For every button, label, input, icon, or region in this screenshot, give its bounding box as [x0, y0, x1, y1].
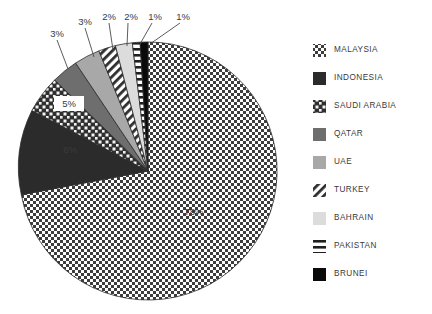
horizontal-lines-swatch-icon: [310, 240, 323, 253]
very-light-solid-swatch-icon: [310, 212, 323, 225]
leader-line-turkey: [109, 23, 113, 50]
light-gray-swatch-icon: [310, 156, 323, 169]
legend-label-brunei: BRUNEI: [334, 270, 368, 278]
pie-label-indonesia: 6%: [63, 144, 77, 155]
legend-item-brunei[interactable]: BRUNEI: [310, 260, 432, 288]
legend-label-bahrain: BAHRAIN: [334, 214, 374, 222]
legend-item-bahrain[interactable]: BAHRAIN: [310, 204, 432, 232]
pie-chart-figure: 78% 6% 5% 3% 3% 2% 2% 1% 1% MALAYSIA: [0, 0, 432, 314]
legend-label-turkey: TURKEY: [334, 186, 370, 194]
pie-label-brunei: 1%: [176, 11, 190, 22]
pie-label-bahrain: 2%: [124, 11, 138, 22]
pie-label-saudi-arabia: 5%: [62, 98, 76, 109]
leader-line-bahrain: [127, 23, 128, 46]
legend-item-qatar[interactable]: QATAR: [310, 120, 432, 148]
chart-legend: MALAYSIA INDONESIA SAUDI ARABIA QATAR UA…: [310, 36, 432, 288]
leader-line-uae: [85, 28, 94, 57]
legend-item-uae[interactable]: UAE: [310, 148, 432, 176]
pie-wedges-group: [18, 42, 277, 300]
medium-gray-swatch-icon: [310, 128, 323, 141]
pie-label-uae: 3%: [78, 16, 92, 27]
black-solid-swatch-icon: [310, 268, 323, 281]
legend-label-uae: UAE: [334, 158, 352, 166]
diagonal-hatch-swatch-icon: [310, 184, 323, 197]
pie-label-turkey: 2%: [102, 11, 116, 22]
leader-line-brunei: [150, 23, 180, 44]
fine-dots-swatch-icon: [310, 44, 323, 57]
leader-line-qatar: [57, 40, 68, 69]
dark-solid-swatch-icon: [310, 72, 323, 85]
legend-item-indonesia[interactable]: INDONESIA: [310, 64, 432, 92]
bold-checker-swatch-icon: [310, 100, 323, 113]
legend-label-saudi-arabia: SAUDI ARABIA: [334, 102, 396, 110]
legend-item-turkey[interactable]: TURKEY: [310, 176, 432, 204]
legend-label-malaysia: MALAYSIA: [334, 46, 378, 54]
legend-label-qatar: QATAR: [334, 130, 363, 138]
legend-item-malaysia[interactable]: MALAYSIA: [310, 36, 432, 64]
legend-item-saudi-arabia[interactable]: SAUDI ARABIA: [310, 92, 432, 120]
leader-line-pakistan: [140, 23, 152, 44]
pie-label-qatar: 3%: [50, 28, 64, 39]
pie-label-malaysia: 78%: [184, 206, 204, 217]
legend-item-pakistan[interactable]: PAKISTAN: [310, 232, 432, 260]
legend-label-indonesia: INDONESIA: [334, 74, 383, 82]
pie-label-pakistan: 1%: [148, 11, 162, 22]
legend-label-pakistan: PAKISTAN: [334, 242, 377, 250]
